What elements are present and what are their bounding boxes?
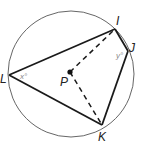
label-k: K	[98, 130, 107, 144]
segment-li	[9, 29, 115, 75]
center-point-p	[67, 69, 72, 74]
radius-pi	[70, 29, 115, 72]
label-p: P	[60, 75, 68, 89]
angle-label-x: x°	[19, 72, 28, 81]
label-j: J	[128, 41, 136, 55]
label-i: I	[116, 14, 120, 28]
geometry-diagram: I J K L P x° y°	[0, 0, 142, 145]
segment-jk	[102, 51, 128, 125]
angle-label-y: y°	[115, 51, 124, 60]
label-l: L	[0, 72, 7, 86]
segment-ij	[115, 29, 128, 51]
segment-kl	[9, 75, 102, 125]
